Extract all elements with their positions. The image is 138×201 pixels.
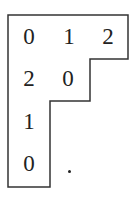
trailing-period-mark: [68, 170, 71, 173]
cell-r4-c1: 0: [14, 149, 44, 179]
cell-r1-c3: 2: [93, 22, 123, 52]
cell-r2-c2: 0: [53, 64, 83, 94]
cell-r1-c2: 1: [54, 22, 84, 52]
cell-r3-c1: 1: [14, 107, 44, 137]
cell-r2-c1: 2: [14, 64, 44, 94]
cell-r1-c1: 0: [14, 22, 44, 52]
